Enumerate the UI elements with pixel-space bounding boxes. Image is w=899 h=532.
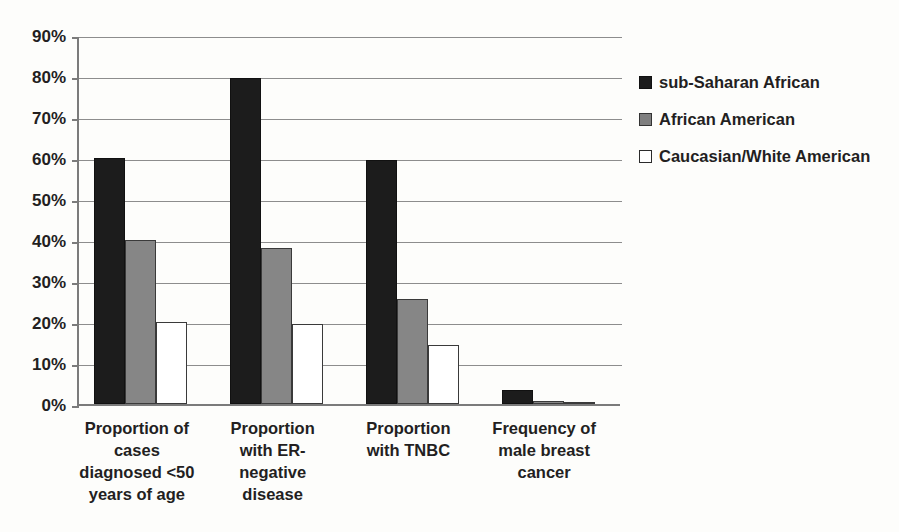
x-axis-category-label: Proportionwith TNBC (341, 418, 477, 462)
y-axis-tick (72, 283, 79, 285)
bar (94, 158, 125, 404)
bar (292, 324, 323, 404)
bar (366, 160, 397, 404)
gray-square-icon (639, 113, 652, 126)
y-axis-tick (72, 119, 79, 121)
legend-label: sub-Saharan African (659, 74, 820, 91)
y-axis-tick (72, 78, 79, 80)
y-axis-tick (72, 242, 79, 244)
legend: sub-Saharan AfricanAfrican AmericanCauca… (639, 64, 895, 175)
y-axis-tick-label: 50% (4, 192, 66, 209)
y-axis-tick-label: 10% (4, 356, 66, 373)
bar-group (366, 35, 459, 404)
bar (397, 299, 428, 404)
bar (564, 402, 595, 404)
black-square-icon (639, 76, 652, 89)
y-axis-tick-label: 60% (4, 151, 66, 168)
y-axis-tick-label: 90% (4, 28, 66, 45)
y-axis-tick-label: 40% (4, 233, 66, 250)
y-axis-tick (72, 37, 79, 39)
legend-item[interactable]: Caucasian/White American (639, 138, 895, 175)
y-axis-tick (72, 201, 79, 203)
y-axis-tick (72, 365, 79, 367)
bar-chart: 90%80%70%60%50%40%30%20%10%0% Proportion… (0, 0, 899, 532)
y-axis-tick-label: 20% (4, 315, 66, 332)
y-axis-tick-label: 0% (4, 397, 66, 414)
bar (125, 240, 156, 404)
x-axis-category-label: Frequency ofmale breastcancer (476, 418, 612, 484)
bar (428, 345, 459, 404)
y-axis-tick (72, 324, 79, 326)
bar (533, 401, 564, 404)
legend-label: Caucasian/White American (659, 148, 870, 165)
x-axis-category-label: Proportionwith ER-negativedisease (205, 418, 341, 506)
y-axis-tick-label: 30% (4, 274, 66, 291)
bar (156, 322, 187, 404)
bar-group (230, 35, 323, 404)
plot-area (77, 37, 620, 406)
white-square-icon (639, 150, 652, 163)
bar (261, 248, 292, 404)
legend-item[interactable]: sub-Saharan African (639, 64, 895, 101)
bar-group (94, 35, 187, 404)
y-axis-tick (72, 406, 79, 408)
legend-label: African American (659, 111, 795, 128)
x-axis-category-label: Proportion ofcasesdiagnosed <50years of … (69, 418, 205, 506)
y-axis-tick-label: 70% (4, 110, 66, 127)
legend-item[interactable]: African American (639, 101, 895, 138)
y-axis-tick (72, 160, 79, 162)
bar (502, 390, 533, 404)
bar-group (502, 35, 595, 404)
y-axis-tick-label: 80% (4, 69, 66, 86)
bar (230, 78, 261, 404)
